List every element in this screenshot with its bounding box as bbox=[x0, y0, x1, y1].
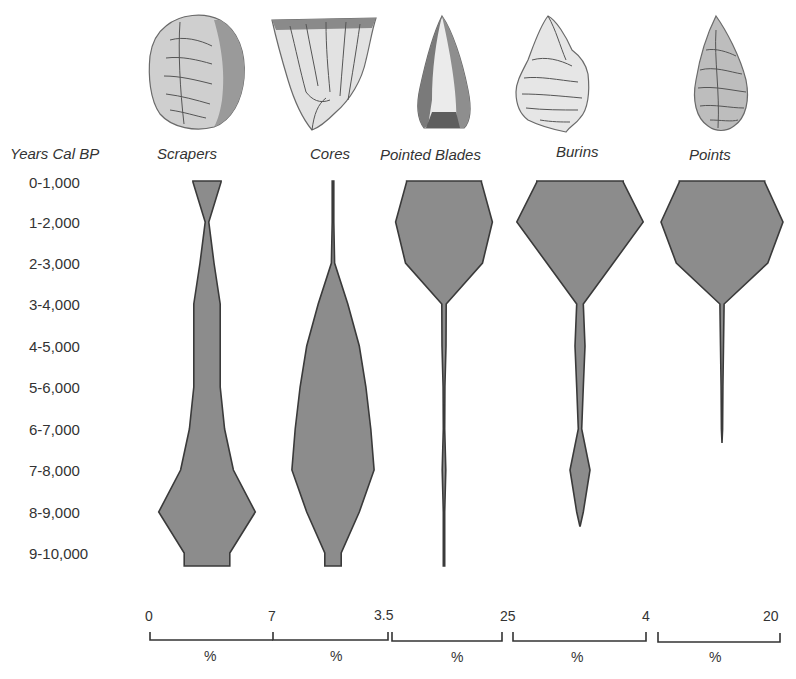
battleship-points bbox=[661, 181, 783, 443]
scale-bars: 0 7 3.5 25 4 20 % % % % % bbox=[145, 607, 780, 665]
column-title-cores: Cores bbox=[310, 145, 351, 162]
column-title-burins: Burins bbox=[556, 143, 599, 160]
unit-label: % bbox=[709, 649, 721, 665]
battleship-scrapers bbox=[159, 181, 256, 566]
scale-tick-label: 7 bbox=[268, 608, 276, 624]
scale-bar-pointed-blades bbox=[392, 632, 502, 641]
row-labels: 0-1,000 1-2,000 2-3,000 3-4,000 4-5,000 … bbox=[29, 174, 88, 562]
scale-tick-label: 3.5 bbox=[374, 607, 394, 623]
pointed-blade-illustration bbox=[418, 16, 470, 128]
seriation-chart: Years Cal BP Scrapers Cores Pointed Blad… bbox=[0, 0, 796, 679]
column-title-pointed-blades: Pointed Blades bbox=[380, 146, 481, 163]
scale-bar-burins bbox=[513, 632, 646, 641]
battleship-cores bbox=[292, 181, 374, 566]
row-label: 6-7,000 bbox=[29, 421, 80, 438]
unit-label: % bbox=[204, 648, 216, 664]
unit-label: % bbox=[451, 649, 463, 665]
row-label: 5-6,000 bbox=[29, 379, 80, 396]
row-label: 0-1,000 bbox=[29, 174, 80, 191]
row-label: 1-2,000 bbox=[29, 214, 80, 231]
row-label: 3-4,000 bbox=[29, 296, 80, 313]
burin-illustration bbox=[516, 16, 589, 132]
point-illustration bbox=[695, 16, 748, 131]
scale-tick-label: 4 bbox=[642, 608, 650, 624]
row-label: 8-9,000 bbox=[29, 504, 80, 521]
scale-tick-label: 20 bbox=[763, 608, 779, 624]
core-illustration bbox=[272, 18, 376, 130]
battleship-shapes bbox=[159, 181, 783, 566]
column-title-scrapers: Scrapers bbox=[157, 145, 218, 162]
row-label: 9-10,000 bbox=[29, 545, 88, 562]
scraper-illustration bbox=[149, 15, 244, 129]
battleship-burins bbox=[517, 181, 643, 526]
scale-tick-label: 0 bbox=[145, 608, 153, 624]
battleship-pointed-blades bbox=[396, 181, 493, 566]
column-title-points: Points bbox=[689, 146, 731, 163]
y-axis-title: Years Cal BP bbox=[10, 145, 99, 162]
scale-bar-scrapers bbox=[150, 632, 273, 640]
scale-bar-points bbox=[658, 632, 780, 642]
scale-tick-label: 25 bbox=[500, 608, 516, 624]
row-label: 2-3,000 bbox=[29, 255, 80, 272]
row-label: 4-5,000 bbox=[29, 338, 80, 355]
unit-label: % bbox=[330, 648, 342, 664]
row-label: 7-8,000 bbox=[29, 462, 80, 479]
unit-label: % bbox=[571, 649, 583, 665]
scale-bar-cores bbox=[273, 632, 388, 640]
